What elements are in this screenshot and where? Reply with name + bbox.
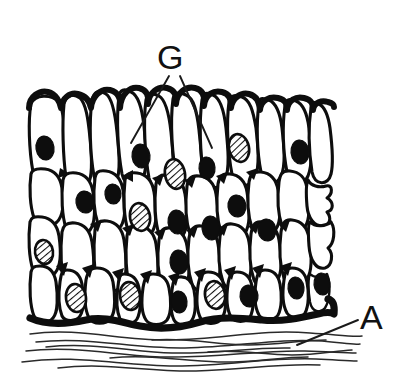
- epithelium-layer: [29, 88, 334, 328]
- connective-tissue-layer: [22, 332, 362, 371]
- epithelial-cell: [255, 270, 281, 320]
- epithelial-cell: [308, 222, 333, 268]
- epithelial-cell: [306, 180, 332, 226]
- label-a-text: A: [360, 298, 383, 336]
- label-g-text: G: [157, 38, 183, 76]
- label-a: A: [360, 300, 383, 334]
- epithelial-cell: [309, 103, 332, 183]
- label-g: G: [157, 40, 183, 74]
- histology-figure: G A: [0, 0, 417, 387]
- epithelial-cell: [30, 266, 57, 322]
- epithelium-diagram-svg: [0, 0, 417, 387]
